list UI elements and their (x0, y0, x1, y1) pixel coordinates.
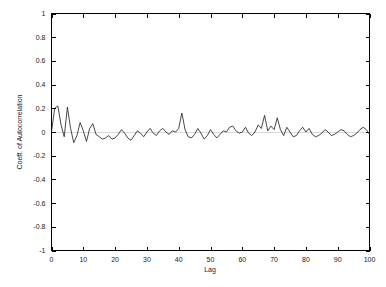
x-tick-label: 20 (111, 256, 119, 263)
x-tick-label: 50 (207, 256, 215, 263)
x-tick-label: 30 (143, 256, 151, 263)
x-tick-label: 40 (175, 256, 183, 263)
y-tick-label: 0.2 (36, 105, 46, 112)
y-tick-label: -0.8 (33, 223, 45, 230)
autocorrelation-figure: 0102030405060708090100 -1-0.8-0.6-0.4-0.… (0, 0, 386, 287)
x-tick-label: 10 (79, 256, 87, 263)
x-tick-label: 100 (364, 256, 376, 263)
y-axis-title: Coeff. of Autocorrelation (16, 94, 23, 169)
x-tick-label: 60 (238, 256, 246, 263)
chart-background (0, 0, 386, 287)
y-tick-label: 0.4 (36, 81, 46, 88)
y-tick-label: 0.8 (36, 34, 46, 41)
y-tick-label: -0.6 (33, 200, 45, 207)
y-tick-label: 0.6 (36, 57, 46, 64)
y-tick-label: -0.2 (33, 152, 45, 159)
x-tick-label: 90 (334, 256, 342, 263)
x-tick-label: 80 (302, 256, 310, 263)
y-tick-label: -0.4 (33, 176, 45, 183)
x-tick-label: 0 (50, 256, 54, 263)
y-tick-label: 0 (42, 129, 46, 136)
x-axis-title: Lag (204, 266, 216, 274)
x-tick-label: 70 (270, 256, 278, 263)
y-tick-label: -1 (39, 247, 45, 254)
y-tick-label: 1 (42, 10, 46, 17)
autocorrelation-chart: 0102030405060708090100 -1-0.8-0.6-0.4-0.… (0, 0, 386, 287)
